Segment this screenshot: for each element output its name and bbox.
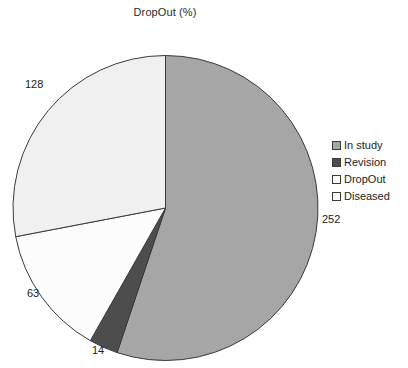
legend-label-revision: Revision [344,157,386,168]
legend-item-in-study[interactable]: In study [332,138,390,153]
slice-label-dropout: 63 [27,287,39,299]
legend-label-in-study: In study [344,140,383,151]
legend-item-revision[interactable]: Revision [332,155,390,170]
legend-label-diseased: Diseased [344,191,390,202]
legend-swatch-in-study [332,141,341,150]
chart-legend: In study Revision DropOut Diseased [332,138,390,204]
pie-slice-group [13,56,318,361]
legend-label-dropout: DropOut [344,174,386,185]
legend-swatch-dropout [332,175,341,184]
slice-label-diseased: 128 [25,78,43,90]
slice-label-revision: 14 [92,344,104,356]
slice-label-in-study: 252 [322,213,340,225]
legend-swatch-diseased [332,192,341,201]
pie-chart-figure: DropOut (%) 252 14 63 128 In study Revis… [0,0,408,368]
legend-item-diseased[interactable]: Diseased [332,189,390,204]
legend-item-dropout[interactable]: DropOut [332,172,390,187]
legend-swatch-revision [332,158,341,167]
